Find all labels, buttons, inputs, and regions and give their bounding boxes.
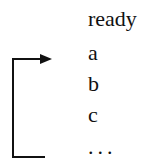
loop-arrow-icon [0,0,166,166]
